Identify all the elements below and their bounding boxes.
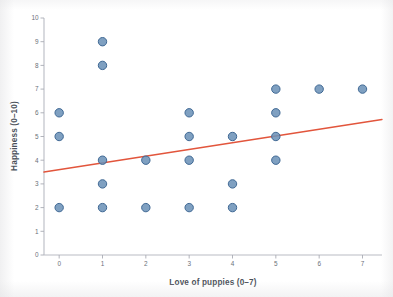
data-point — [142, 203, 150, 211]
y-tick-label: 9 — [35, 38, 39, 45]
data-point — [185, 203, 193, 211]
x-tick-label: 2 — [144, 260, 148, 267]
data-point — [55, 132, 63, 140]
y-tick-label: 7 — [35, 85, 39, 92]
y-tick-label: 1 — [35, 228, 39, 235]
y-tick-label: 5 — [35, 133, 39, 140]
y-tick-label: 8 — [35, 62, 39, 69]
x-tick-label: 6 — [317, 260, 321, 267]
y-tick-label: 6 — [35, 109, 39, 116]
data-point — [185, 156, 193, 164]
x-tick-label: 0 — [57, 260, 61, 267]
data-point — [272, 156, 280, 164]
data-point — [185, 132, 193, 140]
y-tick-label: 4 — [35, 157, 39, 164]
data-point — [98, 203, 106, 211]
y-tick-label: 10 — [31, 14, 39, 21]
x-tick-label: 5 — [274, 260, 278, 267]
data-point — [142, 156, 150, 164]
x-tick-label: 3 — [187, 260, 191, 267]
data-point — [315, 85, 323, 93]
y-axis-title: Happiness (0–10) — [10, 101, 19, 171]
data-point — [272, 109, 280, 117]
y-tick-label: 2 — [35, 204, 39, 211]
data-point — [98, 38, 106, 46]
scatter-plot-figure: 012345678910 01234567 Love of puppies (0… — [0, 0, 393, 297]
data-point — [272, 85, 280, 93]
data-point — [98, 61, 106, 69]
x-tick-label: 7 — [361, 260, 365, 267]
data-point — [98, 156, 106, 164]
x-axis-title: Love of puppies (0–7) — [169, 278, 256, 287]
plot-canvas: 012345678910 01234567 Love of puppies (0… — [0, 0, 393, 297]
data-point — [185, 109, 193, 117]
data-point — [272, 132, 280, 140]
data-point — [55, 203, 63, 211]
y-tick-label: 3 — [35, 180, 39, 187]
data-point — [55, 109, 63, 117]
data-point — [228, 132, 236, 140]
data-point — [98, 180, 106, 188]
data-point — [228, 203, 236, 211]
data-point — [228, 180, 236, 188]
x-tick-label: 4 — [231, 260, 235, 267]
x-tick-label: 1 — [101, 260, 105, 267]
y-tick-label: 0 — [35, 251, 39, 258]
data-point — [358, 85, 366, 93]
